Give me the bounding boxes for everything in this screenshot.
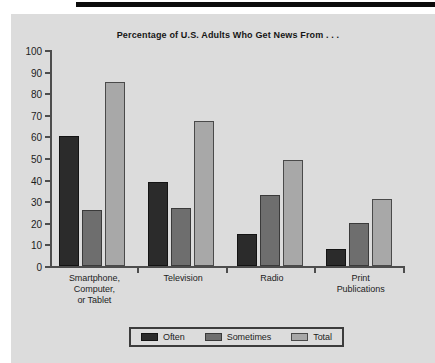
y-axis-tick-label: 90 (31, 67, 42, 78)
legend-label: Sometimes (227, 332, 272, 342)
chart-figure: Percentage of U.S. Adults Who Get News F… (11, 14, 435, 363)
bar (105, 82, 125, 266)
x-axis-category-label: Radio (222, 273, 323, 284)
y-axis-tick-label: 50 (31, 154, 42, 165)
chart-legend: OftenSometimesTotal (129, 327, 344, 347)
y-axis-tick (45, 115, 50, 117)
y-axis-tick (45, 180, 50, 182)
y-axis-tick-label: 60 (31, 132, 42, 143)
header-rule (76, 2, 435, 7)
y-axis-tick (45, 158, 50, 160)
legend-swatch-icon (291, 333, 308, 341)
y-axis-tick (45, 50, 50, 52)
y-axis-line (50, 50, 52, 268)
bar (260, 195, 280, 266)
bar (194, 121, 214, 266)
legend-label: Often (163, 332, 185, 342)
legend-item: Total (291, 332, 332, 342)
bar (82, 210, 102, 266)
bar (283, 160, 303, 266)
x-axis-category-label: Print Publications (310, 273, 411, 295)
bar (59, 136, 79, 266)
legend-label: Total (313, 332, 332, 342)
x-axis-category-label: Television (133, 273, 234, 284)
chart-title: Percentage of U.S. Adults Who Get News F… (11, 30, 435, 40)
y-axis-tick (45, 201, 50, 203)
legend-item: Sometimes (205, 332, 272, 342)
y-axis-tick-label: 40 (31, 175, 42, 186)
bar (326, 249, 346, 266)
y-axis-tick-label: 70 (31, 110, 42, 121)
y-axis-tick-label: 30 (31, 197, 42, 208)
legend-swatch-icon (205, 333, 222, 341)
y-axis-tick-label: 10 (31, 240, 42, 251)
x-axis-category-label: Smartphone, Computer, or Tablet (44, 273, 145, 306)
y-axis-tick (45, 244, 50, 246)
legend-swatch-icon (141, 333, 158, 341)
bar (349, 223, 369, 266)
plot-area: 0102030405060708090100 (50, 50, 405, 268)
bar (148, 182, 168, 266)
y-axis-tick (45, 93, 50, 95)
x-axis-line (50, 266, 405, 268)
legend-item: Often (141, 332, 185, 342)
y-axis-tick-label: 80 (31, 89, 42, 100)
y-axis-tick (45, 136, 50, 138)
y-axis-tick-label: 0 (37, 262, 42, 273)
y-axis-tick (45, 223, 50, 225)
bar (237, 234, 257, 266)
y-axis-tick (45, 266, 50, 268)
page-canvas: Percentage of U.S. Adults Who Get News F… (0, 0, 435, 363)
y-axis-tick-label: 100 (26, 46, 42, 57)
y-axis-tick (45, 72, 50, 74)
bar (171, 208, 191, 266)
y-axis-tick-label: 20 (31, 218, 42, 229)
bar (372, 199, 392, 266)
